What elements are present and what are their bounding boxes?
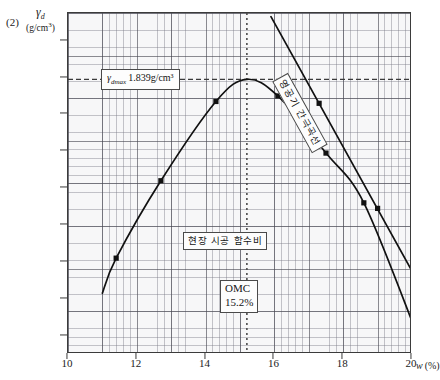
y-axis-label: γd (g/cm3): [26, 6, 55, 34]
chart-figure: (2) γd (g/cm3) w (%) γdmax1.839g/cm³ 현장 …: [0, 0, 440, 380]
omc-value: 15.2%: [225, 296, 253, 310]
data-point-marker: [114, 256, 119, 261]
y-tick-mark: [60, 187, 67, 188]
data-point-marker: [361, 200, 366, 205]
y-tick-mark: [60, 297, 67, 298]
y-tick-mark: [60, 76, 67, 77]
data-point-marker: [317, 101, 322, 106]
field-water-content-annotation: 현장 시공 함수비: [183, 232, 267, 250]
figure-number: (2): [6, 16, 19, 28]
omc-title: OMC: [225, 282, 253, 296]
gamma-dmax-value: 1.839g/cm³: [128, 72, 174, 83]
x-tick-mark: [204, 353, 205, 359]
y-tick-mark: [60, 150, 67, 151]
y-axis-unit: (g/cm3): [26, 22, 55, 34]
x-tick-mark: [135, 353, 136, 359]
x-tick-mark: [410, 353, 411, 359]
y-tick-mark: [60, 260, 67, 261]
zero-air-voids-curve: [271, 17, 411, 271]
data-point-marker: [323, 150, 328, 155]
omc-annotation: OMC 15.2%: [220, 280, 258, 313]
data-point-marker: [158, 178, 163, 183]
plot-area: γdmax1.839g/cm³ 현장 시공 함수비 OMC 15.2% 영공기 …: [67, 12, 411, 353]
x-tick-mark: [273, 353, 274, 359]
x-tick-mark: [66, 353, 67, 359]
gamma-dmax-annotation: γdmax1.839g/cm³: [101, 69, 180, 90]
y-tick-mark: [60, 113, 67, 114]
y-tick-mark: [60, 39, 67, 40]
data-point-marker: [213, 99, 218, 104]
data-point-marker: [375, 206, 380, 211]
x-tick-mark: [342, 353, 343, 359]
y-tick-mark: [60, 334, 67, 335]
x-axis-label: w (%): [416, 360, 440, 371]
y-axis-symbol: γd: [26, 6, 55, 22]
y-tick-mark: [60, 223, 67, 224]
